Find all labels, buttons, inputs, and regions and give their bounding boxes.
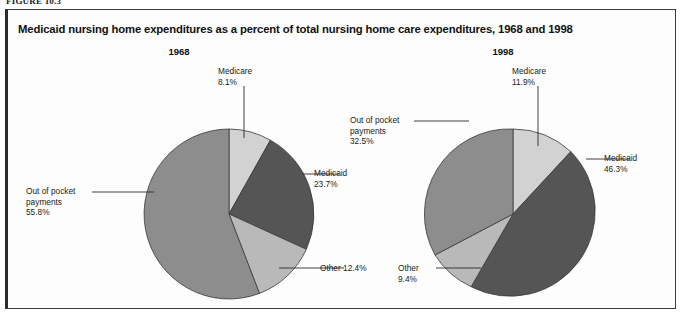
label-medicare-1968: Medicare 8.1% bbox=[218, 66, 252, 87]
figure-number-label: FIGURE 10.3 bbox=[6, 0, 61, 6]
label-oop-value-1998: 32.5% bbox=[350, 136, 374, 146]
label-medicaid-1998: Medicaid 46.3% bbox=[604, 153, 637, 174]
label-out-of-pocket-1968: Out of pocket payments 55.8% bbox=[26, 186, 75, 218]
label-other-name-1998: Other bbox=[398, 263, 419, 273]
pie-chart-1998: 1998 Medicare 11.9% Medicaid 46.3% bbox=[338, 46, 668, 308]
pie-svg-1998 bbox=[338, 46, 668, 308]
figure-panel: Medicaid nursing home expenditures as a … bbox=[5, 9, 676, 309]
label-oop-line1-1968: Out of pocket bbox=[26, 186, 75, 196]
pie-svg-1968 bbox=[14, 46, 344, 308]
label-out-of-pocket-1998: Out of pocket payments 32.5% bbox=[350, 115, 399, 147]
label-medicare-name-1968: Medicare bbox=[218, 66, 252, 76]
label-oop-line2-1998: payments bbox=[350, 126, 386, 136]
pie-chart-1968: 1968 Medicare 8.1% Medicaid 23.7% bbox=[14, 46, 344, 308]
label-oop-value-1968: 55.8% bbox=[26, 207, 50, 217]
label-oop-line1-1998: Out of pocket bbox=[350, 115, 399, 125]
label-other-1998: Other 9.4% bbox=[398, 263, 419, 284]
label-medicare-name-1998: Medicare bbox=[512, 66, 546, 76]
label-oop-line2-1968: payments bbox=[26, 197, 62, 207]
label-medicaid-value-1968: 23.7% bbox=[314, 179, 338, 189]
label-medicaid-value-1998: 46.3% bbox=[604, 164, 628, 174]
label-medicare-value-1968: 8.1% bbox=[218, 77, 237, 87]
label-medicare-value-1998: 11.9% bbox=[512, 77, 535, 87]
figure-title: Medicaid nursing home expenditures as a … bbox=[18, 23, 668, 35]
label-medicaid-name-1998: Medicaid bbox=[604, 153, 637, 163]
label-medicare-1998: Medicare 11.9% bbox=[512, 66, 546, 87]
label-other-value-1998: 9.4% bbox=[398, 274, 417, 284]
